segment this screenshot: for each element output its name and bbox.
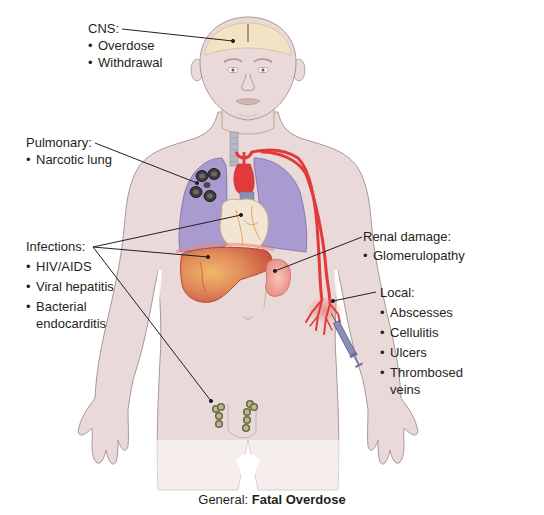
label-cns-title: CNS: — [88, 20, 162, 37]
trachea — [230, 132, 238, 166]
label-pulmonary-title: Pulmonary: — [26, 134, 112, 151]
label-renal-title: Renal damage: — [363, 228, 465, 245]
label-local-item: Cellulitis — [380, 324, 470, 341]
label-renal-item: Glomerulopathy — [363, 247, 465, 264]
label-local-item: Abscesses — [380, 304, 470, 321]
label-local-item: Ulcers — [380, 344, 470, 361]
head — [191, 17, 305, 120]
caption-emphasis: Fatal Overdose — [252, 492, 346, 507]
label-infections-item: Viral hepatitis — [26, 278, 126, 295]
label-infections: Infections: HIV/AIDS Viral hepatitis Bac… — [26, 238, 126, 335]
label-cns-item: Withdrawal — [88, 54, 162, 71]
label-infections-item: Bacterial endocarditis — [26, 298, 126, 332]
label-infections-title: Infections: — [26, 238, 126, 255]
caption-prefix: General: — [198, 492, 248, 507]
label-local-item: Thrombosed veins — [380, 364, 470, 398]
label-cns-item: Overdose — [88, 37, 162, 54]
label-renal: Renal damage: Glomerulopathy — [363, 228, 465, 264]
label-infections-item: HIV/AIDS — [26, 258, 126, 275]
figure-caption: General: Fatal Overdose — [0, 492, 544, 508]
label-local: Local: Abscesses Cellulitis Ulcers Throm… — [380, 284, 470, 401]
label-local-title: Local: — [380, 284, 470, 301]
label-pulmonary-item: Narcotic lung — [26, 151, 112, 168]
label-cns: CNS: Overdose Withdrawal — [88, 20, 162, 71]
label-pulmonary: Pulmonary: Narcotic lung — [26, 134, 112, 168]
